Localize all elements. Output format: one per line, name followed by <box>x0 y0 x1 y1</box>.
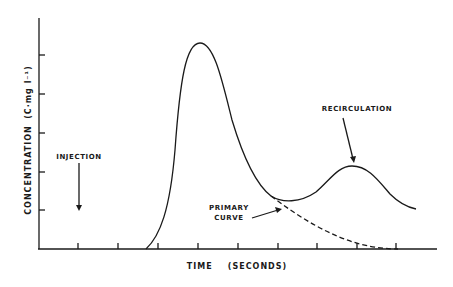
injection-label: INJECTION <box>56 153 102 161</box>
y-ticks <box>39 55 45 210</box>
recirculation-arrow <box>343 118 353 159</box>
primary-curve-dashed <box>271 196 398 249</box>
x-axis-label: TIME (SECONDS) <box>187 262 287 271</box>
primary-label-2: CURVE <box>214 214 243 222</box>
recirculation-label: RECIRCULATION <box>322 105 392 113</box>
observed-curve <box>146 43 416 249</box>
y-axis-unit: (C·mg l⁻¹) <box>24 65 33 119</box>
x-ticks <box>78 243 396 249</box>
indicator-dilution-diagram: INJECTION PRIMARY CURVE RECIRCULATION TI… <box>0 0 453 287</box>
primary-label-1: PRIMARY <box>209 204 249 212</box>
primary-curve-arrow <box>252 210 278 218</box>
y-axis-label: CONCENTRATION <box>24 125 33 215</box>
